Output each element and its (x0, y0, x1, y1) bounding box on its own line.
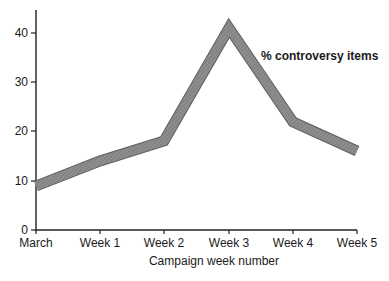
y-tick-label: 40 (15, 26, 29, 40)
x-tick-label: Week 3 (209, 236, 250, 250)
y-tick-label: 20 (15, 124, 29, 138)
y-tick-label: 0 (21, 223, 28, 237)
x-ticks: March Week 1 Week 2 Week 3 Week 4 Week 5 (19, 230, 377, 250)
x-tick-label: Week 1 (80, 236, 121, 250)
series-label: % controversy items (261, 49, 379, 63)
line-chart: 0 10 20 30 40 March Week 1 Week 2 Week 3… (0, 0, 389, 281)
x-tick-label: Week 2 (144, 236, 185, 250)
x-tick-label: Week 5 (337, 236, 378, 250)
x-tick-label: March (19, 236, 52, 250)
y-tick-label: 10 (15, 174, 29, 188)
y-ticks: 0 10 20 30 40 (15, 26, 36, 237)
x-axis-title: Campaign week number (149, 254, 279, 268)
y-tick-label: 30 (15, 75, 29, 89)
x-tick-label: Week 4 (273, 236, 314, 250)
